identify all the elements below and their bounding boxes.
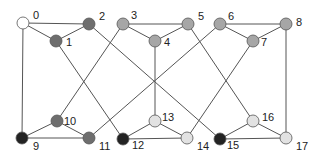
- node-11: 11: [83, 132, 110, 152]
- node-label: 13: [162, 111, 174, 123]
- node-4: 4: [149, 35, 170, 48]
- node-label: 7: [261, 36, 267, 48]
- node-label: 1: [66, 36, 72, 48]
- node-label: 16: [262, 111, 274, 123]
- node-label: 6: [228, 10, 234, 22]
- node-circle: [214, 18, 226, 30]
- node-circle: [117, 133, 129, 145]
- node-circle: [83, 132, 95, 144]
- node-circle: [149, 115, 161, 127]
- edge-0-9: [22, 23, 23, 138]
- node-17: 17: [280, 132, 308, 152]
- node-label: 3: [131, 9, 137, 21]
- node-circle: [83, 18, 95, 30]
- node-7: 7: [247, 35, 267, 48]
- node-1: 1: [50, 35, 72, 48]
- node-circle: [117, 18, 129, 30]
- node-circle: [280, 132, 292, 144]
- node-circle: [247, 35, 259, 47]
- node-label: 8: [296, 16, 302, 28]
- node-label: 5: [198, 10, 204, 22]
- node-label: 9: [33, 140, 39, 152]
- node-0: 0: [17, 9, 39, 29]
- nodes-layer: 01234567891011121314151617: [16, 9, 308, 152]
- node-6: 6: [214, 10, 234, 30]
- node-14: 14: [181, 132, 209, 152]
- edge-7-14: [187, 41, 253, 138]
- node-circle: [181, 132, 193, 144]
- node-label: 2: [99, 10, 105, 22]
- node-label: 4: [164, 36, 170, 48]
- node-label: 10: [64, 115, 76, 127]
- node-label: 17: [296, 140, 308, 152]
- node-label: 11: [99, 140, 110, 152]
- node-3: 3: [117, 9, 137, 30]
- node-label: 15: [227, 139, 239, 151]
- node-circle: [280, 18, 292, 30]
- node-2: 2: [83, 10, 105, 30]
- node-circle: [16, 132, 28, 144]
- node-circle: [149, 35, 161, 47]
- node-10: 10: [51, 115, 76, 127]
- edge-5-16: [188, 24, 253, 121]
- node-12: 12: [117, 133, 144, 151]
- graph-diagram: 01234567891011121314151617: [0, 0, 322, 158]
- node-circle: [182, 18, 194, 30]
- node-circle: [51, 115, 63, 127]
- node-circle: [50, 35, 62, 47]
- node-circle: [17, 17, 29, 29]
- node-8: 8: [280, 16, 302, 30]
- node-circle: [247, 115, 259, 127]
- edge-0-2: [23, 23, 89, 24]
- node-9: 9: [16, 132, 39, 152]
- node-label: 12: [132, 139, 144, 151]
- node-circle: [214, 133, 226, 145]
- node-5: 5: [182, 10, 204, 30]
- node-label: 14: [197, 140, 209, 152]
- node-label: 0: [33, 9, 39, 21]
